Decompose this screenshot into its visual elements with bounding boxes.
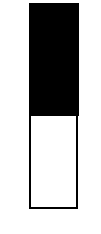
gauge-empty-section (29, 116, 78, 209)
gauge-filled-section (29, 3, 79, 116)
level-gauge (29, 3, 79, 210)
